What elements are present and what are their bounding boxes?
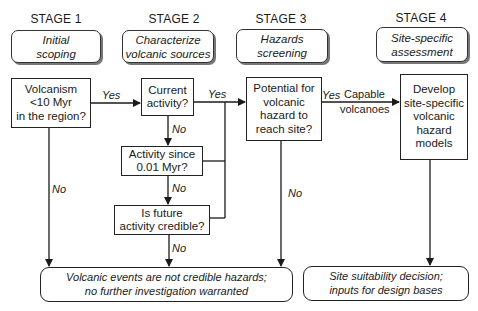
terminal-not-credible: Volcanic events are not credible hazards… <box>40 267 293 302</box>
edge-label-potential-no: No <box>288 187 302 199</box>
node-future-activity: Is future activity credible? <box>114 205 210 235</box>
edge-label-volcanism-yes: Yes <box>102 89 120 101</box>
node-future-line1: Is future <box>141 207 183 221</box>
stage-4-title-line1: Site-specific <box>391 31 453 45</box>
edge-label-future-no: No <box>172 242 186 254</box>
terminal-not-credible-line1: Volcanic events are not credible hazards… <box>66 271 267 285</box>
stage-3-title: Hazards screening <box>236 29 328 63</box>
node-potential-line1: Potential for <box>253 82 314 96</box>
edge-label-current-no: No <box>172 123 186 135</box>
terminal-site-decision-line2: inputs for design bases <box>329 284 442 298</box>
stage-3-title-line2: screening <box>257 46 307 60</box>
stage-1-title-line1: Initial <box>43 33 70 47</box>
stage-2-label: STAGE 2 <box>124 12 224 26</box>
node-develop-models: Develop site-specific volcanic hazard mo… <box>400 74 468 160</box>
node-develop-line3: volcanic <box>413 110 455 124</box>
terminal-site-decision: Site suitability decision; inputs for de… <box>303 266 469 301</box>
node-activity-since: Activity since 0.01 Myr? <box>121 146 203 176</box>
edge-label-capable: Capable <box>344 88 385 100</box>
node-volcanism-line3: in the region? <box>16 110 86 124</box>
node-since-line1: Activity since <box>129 148 195 162</box>
stage-2-title: Characterize volcanic sources <box>122 30 214 63</box>
node-develop-line2: site-specific <box>404 97 464 111</box>
stage-1-title-line2: scoping <box>36 47 76 61</box>
node-develop-line1: Develop <box>413 83 455 97</box>
stage-3-label: STAGE 3 <box>231 12 331 26</box>
node-develop-line4: hazard <box>416 124 451 138</box>
node-volcanism: Volcanism <10 Myr in the region? <box>11 78 91 128</box>
stage-3-title-line1: Hazards <box>261 32 304 46</box>
node-potential-line2: volcanic <box>263 96 305 110</box>
node-since-line2: 0.01 Myr? <box>136 161 187 175</box>
node-potential-line4: reach site? <box>256 123 312 137</box>
node-current-activity: Current activity? <box>141 78 194 116</box>
node-current-line2: activity? <box>147 97 189 111</box>
stage-1-label: STAGE 1 <box>6 12 106 26</box>
node-volcanism-line1: Volcanism <box>25 83 77 97</box>
stage-1-title: Initial scoping <box>11 30 101 63</box>
edge-label-current-yes: Yes <box>208 88 226 100</box>
node-potential-line3: hazard to <box>260 109 308 123</box>
stage-2-title-line1: Characterize <box>135 33 200 47</box>
terminal-site-decision-line1: Site suitability decision; <box>329 270 443 284</box>
terminal-not-credible-line2: no further investigation warranted <box>85 285 248 299</box>
stage-4-label: STAGE 4 <box>371 11 471 25</box>
node-current-line1: Current <box>148 84 186 98</box>
node-develop-line5: models <box>415 137 452 151</box>
edge-label-volcanoes: volcanoes <box>340 103 390 115</box>
stage-4-title-line2: assessment <box>391 45 452 59</box>
node-volcanism-line2: <10 Myr <box>30 96 72 110</box>
node-future-line2: activity credible? <box>119 220 204 234</box>
edge-label-since-no: No <box>172 182 186 194</box>
node-potential-hazard: Potential for volcanic hazard to reach s… <box>246 77 322 141</box>
stage-4-title: Site-specific assessment <box>376 27 468 62</box>
edge-label-volcanism-no: No <box>52 183 66 195</box>
stage-2-title-line2: volcanic sources <box>125 47 210 61</box>
edge-label-potential-yes: Yes <box>322 89 340 101</box>
